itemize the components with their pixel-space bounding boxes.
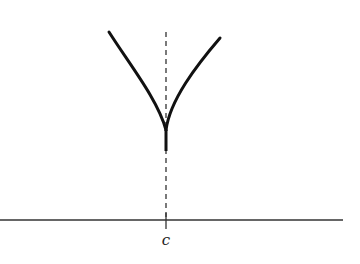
tick-label-c: c — [162, 231, 171, 249]
curve-right-branch — [166, 38, 220, 130]
cusp-diagram: c — [0, 0, 360, 264]
curve-left-branch — [109, 32, 166, 130]
